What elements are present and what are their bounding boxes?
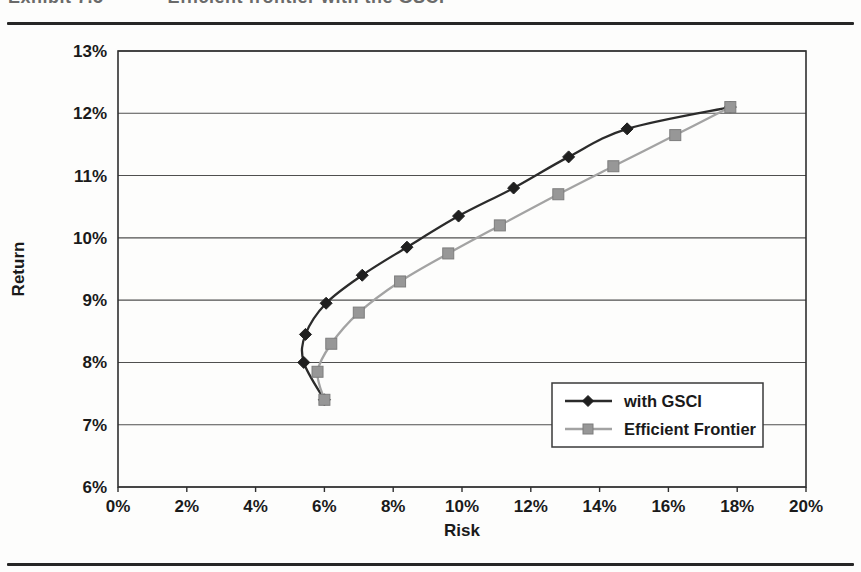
legend-label: Efficient Frontier	[624, 420, 757, 438]
y-tick-label: 8%	[82, 353, 107, 372]
bottom-horizontal-rule	[7, 563, 854, 566]
diamond-marker	[453, 210, 465, 222]
y-tick-label: 6%	[82, 478, 107, 497]
series-line-with-gsci	[302, 107, 730, 400]
y-tick-label: 12%	[73, 104, 107, 123]
y-tick-label: 11%	[74, 167, 107, 186]
y-tick-label: 7%	[82, 416, 107, 435]
diamond-marker	[508, 182, 520, 194]
series-line-efficient-frontier	[317, 107, 730, 400]
square-marker	[553, 189, 564, 200]
x-tick-label: 6%	[312, 497, 337, 516]
square-marker	[312, 366, 323, 377]
y-axis-title: Return	[9, 242, 28, 297]
square-marker	[353, 307, 364, 318]
y-tick-label: 13%	[73, 42, 107, 61]
square-marker	[725, 102, 736, 113]
diamond-marker	[621, 123, 633, 135]
diamond-marker	[563, 151, 575, 163]
square-marker	[326, 338, 337, 349]
x-tick-label: 14%	[583, 497, 617, 516]
diamond-marker	[401, 241, 413, 253]
scanned-page: Exhibit 7.5Efficient frontier with the G…	[0, 0, 861, 572]
x-tick-label: 20%	[789, 497, 823, 516]
x-tick-label: 16%	[651, 497, 685, 516]
square-marker	[670, 130, 681, 141]
square-marker	[608, 161, 619, 172]
square-marker	[443, 248, 454, 259]
x-tick-label: 10%	[445, 497, 479, 516]
y-tick-label: 9%	[82, 291, 107, 310]
x-tick-label: 4%	[243, 497, 268, 516]
square-marker	[319, 394, 330, 405]
diamond-marker	[299, 328, 311, 340]
square-marker	[583, 424, 593, 434]
x-tick-label: 8%	[381, 497, 406, 516]
x-tick-label: 0%	[106, 497, 131, 516]
square-marker	[494, 220, 505, 231]
x-tick-label: 2%	[175, 497, 200, 516]
x-tick-label: 12%	[514, 497, 548, 516]
diamond-marker	[298, 356, 310, 368]
x-tick-label: 18%	[720, 497, 754, 516]
legend-label: with GSCI	[623, 392, 702, 410]
y-tick-label: 10%	[73, 229, 107, 248]
square-marker	[395, 276, 406, 287]
efficient-frontier-chart: 6%7%8%9%10%11%12%13%0%2%4%6%8%10%12%14%1…	[0, 0, 861, 572]
x-axis-title: Risk	[444, 521, 480, 540]
